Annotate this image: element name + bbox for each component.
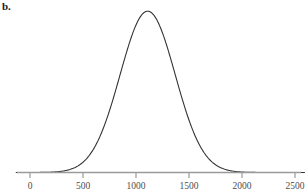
x-tick-label-2000: 2000 (233, 181, 252, 191)
normal-distribution-chart: 05001000150020002500 (0, 0, 307, 195)
normal-curve (16, 11, 304, 172)
x-axis-tick-marks (30, 173, 295, 179)
x-tick-label-0: 0 (28, 181, 33, 191)
figure-panel: b. 05001000150020002500 (0, 0, 307, 195)
x-axis-group (17, 173, 301, 179)
x-axis-tick-labels: 05001000150020002500 (28, 181, 305, 191)
x-tick-label-1500: 1500 (180, 181, 199, 191)
chart-curve-group (16, 11, 304, 172)
x-tick-label-500: 500 (76, 181, 91, 191)
x-tick-label-1000: 1000 (127, 181, 146, 191)
x-tick-label-2500: 2500 (286, 181, 305, 191)
